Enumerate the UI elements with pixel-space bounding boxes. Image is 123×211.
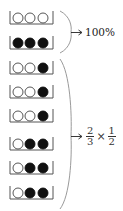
- ball-empty-icon: [13, 13, 23, 23]
- tray-icon: [9, 108, 54, 123]
- fraction-denominator: 3: [87, 137, 93, 147]
- tray-row: [9, 84, 54, 99]
- tray-icon: [9, 160, 54, 175]
- arrow-icon: [71, 133, 83, 140]
- fraction-denominator: 2: [109, 137, 115, 147]
- tray-icon: [9, 60, 54, 75]
- ball-filled-icon: [25, 38, 35, 48]
- result-label-100-percent: 100%: [85, 26, 115, 38]
- tray-row: [9, 136, 54, 151]
- tray-row: [9, 35, 54, 50]
- ball-empty-icon: [13, 163, 23, 173]
- ball-filled-icon: [25, 188, 35, 198]
- tray-icon: [9, 136, 54, 151]
- arrow-icon: [71, 29, 83, 36]
- ball-empty-icon: [13, 87, 23, 97]
- probability-expression: 2 3 × 1 2: [86, 126, 116, 147]
- ball-filled-icon: [38, 163, 48, 173]
- ball-filled-icon: [38, 63, 48, 73]
- tray-icon: [9, 84, 54, 99]
- tray-icon: [9, 185, 54, 200]
- ball-filled-icon: [25, 139, 35, 149]
- ball-empty-icon: [25, 87, 35, 97]
- ball-empty-icon: [13, 188, 23, 198]
- fraction-two-thirds: 2 3: [86, 126, 94, 147]
- fraction-one-half: 1 2: [108, 126, 116, 147]
- tray-row: [9, 108, 54, 123]
- ball-empty-icon: [13, 111, 23, 121]
- ball-empty-icon: [25, 111, 35, 121]
- ball-empty-icon: [38, 13, 48, 23]
- ball-empty-icon: [25, 13, 35, 23]
- tray-row: [9, 60, 54, 75]
- ball-empty-icon: [13, 139, 23, 149]
- tray-icon: [9, 10, 54, 25]
- tray-icon: [9, 35, 54, 50]
- tray-row: [9, 185, 54, 200]
- ball-filled-icon: [38, 139, 48, 149]
- ball-empty-icon: [13, 63, 23, 73]
- ball-filled-icon: [38, 188, 48, 198]
- tray-row: [9, 160, 54, 175]
- ball-filled-icon: [25, 163, 35, 173]
- ball-filled-icon: [38, 87, 48, 97]
- times-operator: ×: [96, 130, 105, 143]
- ball-filled-icon: [13, 38, 23, 48]
- tray-row: [9, 10, 54, 25]
- ball-filled-icon: [38, 111, 48, 121]
- ball-filled-icon: [38, 38, 48, 48]
- ball-empty-icon: [25, 63, 35, 73]
